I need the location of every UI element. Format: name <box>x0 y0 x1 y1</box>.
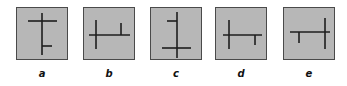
option-d <box>215 7 267 60</box>
option-label-c: c <box>150 68 202 79</box>
figure-box-a <box>16 7 68 60</box>
line-figure-icon <box>151 8 201 59</box>
option-label-d: d <box>215 68 267 79</box>
option-label-b: b <box>83 68 135 79</box>
option-a <box>16 7 68 60</box>
option-e <box>283 7 335 60</box>
option-c <box>150 7 202 60</box>
line-figure-icon <box>216 8 266 59</box>
figure-box-c <box>150 7 202 60</box>
figure-box-d <box>215 7 267 60</box>
line-figure-icon <box>284 8 334 59</box>
figure-box-b <box>83 7 135 60</box>
option-label-a: a <box>16 68 68 79</box>
line-figure-icon <box>84 8 134 59</box>
figure-box-e <box>283 7 335 60</box>
option-label-e: e <box>283 68 335 79</box>
option-b <box>83 7 135 60</box>
line-figure-icon <box>17 8 67 59</box>
